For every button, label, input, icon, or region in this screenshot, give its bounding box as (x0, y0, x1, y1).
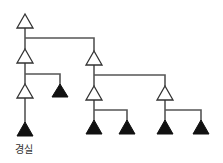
edge-n7-n12 (165, 110, 201, 121)
edge-n3-n7 (94, 75, 165, 86)
node-n2-outline-triangle-icon (17, 49, 33, 63)
node-n10-filled-triangle-icon (119, 120, 135, 134)
node-n3-outline-triangle-icon (86, 51, 102, 65)
node-n7-outline-triangle-icon (157, 86, 173, 100)
node-n9-filled-triangle-icon (86, 120, 102, 134)
edge-n1-n3 (25, 38, 94, 51)
edge-n2-n5 (25, 74, 60, 85)
node-n6-outline-triangle-icon (86, 86, 102, 100)
edge-n6-n10 (94, 110, 127, 121)
node-n11-filled-triangle-icon (157, 120, 173, 134)
node-label-n8: 경실 (15, 141, 33, 156)
node-n12-filled-triangle-icon (193, 120, 209, 134)
node-n5-filled-triangle-icon (52, 84, 68, 97)
node-n8-filled-triangle-icon (17, 122, 33, 136)
node-n1-outline-triangle-icon (17, 14, 33, 28)
connectors (25, 28, 201, 123)
node-n4-outline-triangle-icon (17, 84, 33, 98)
outline-nodes (17, 14, 173, 100)
tree-diagram (0, 0, 223, 163)
